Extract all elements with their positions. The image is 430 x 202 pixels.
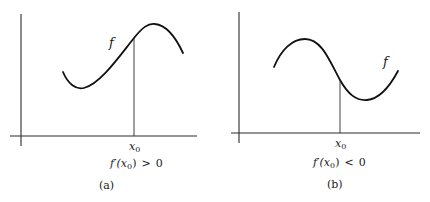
curve-f-b bbox=[274, 39, 398, 100]
panel-a: f x0 f′(x0)>0 (a) bbox=[10, 14, 197, 192]
derivative-sign-figure: f x0 f′(x0)>0 (a) f x0 f′(x0)<0 (b) bbox=[0, 0, 430, 202]
condition-a: f′(x0)>0 bbox=[109, 157, 163, 171]
x0-label-b: x0 bbox=[335, 137, 346, 151]
condition-b: f′(x0)<0 bbox=[312, 156, 366, 170]
curve-label-a: f bbox=[108, 35, 116, 50]
curve-label-b: f bbox=[382, 54, 390, 69]
x0-label-a: x0 bbox=[129, 140, 140, 154]
caption-a: (a) bbox=[99, 179, 114, 192]
panel-b: f x0 f′(x0)<0 (b) bbox=[231, 12, 420, 191]
curve-f-a bbox=[63, 24, 183, 89]
caption-b: (b) bbox=[327, 178, 343, 191]
